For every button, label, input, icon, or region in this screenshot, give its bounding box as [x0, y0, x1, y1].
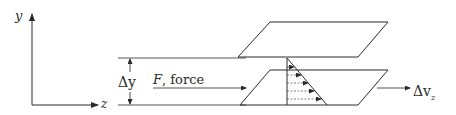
velocity-difference-label: Δvz — [413, 84, 435, 102]
profile-slope — [287, 58, 327, 105]
force-text: , force — [162, 72, 204, 87]
shear-flow-diagram: y z Δy F, force Δvz — [0, 0, 456, 115]
velocity-difference-main: Δv — [413, 83, 431, 99]
bottom-plate — [240, 70, 388, 105]
top-plate — [238, 22, 388, 57]
gap-label: Δy — [118, 75, 136, 89]
velocity-difference-subscript: z — [431, 93, 435, 102]
force-symbol: F — [153, 72, 162, 87]
gap-label-text: Δy — [118, 74, 136, 90]
diagram-canvas — [0, 0, 456, 115]
velocity-profile — [287, 58, 327, 105]
y-axis-label: y — [15, 9, 22, 22]
coordinate-axes — [32, 14, 98, 105]
force-label: F, force — [153, 73, 204, 86]
z-axis-label: z — [101, 98, 107, 110]
